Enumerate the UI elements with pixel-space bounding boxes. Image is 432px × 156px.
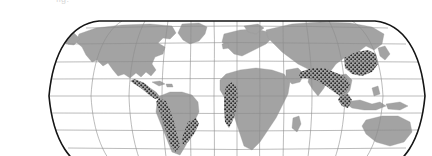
- landmass-new-zealand: [418, 138, 426, 148]
- landmass-hispaniola: [166, 84, 173, 87]
- world-map: [0, 0, 432, 156]
- figure-root: fig.: [0, 0, 432, 156]
- landmass-british-isles: [222, 43, 229, 49]
